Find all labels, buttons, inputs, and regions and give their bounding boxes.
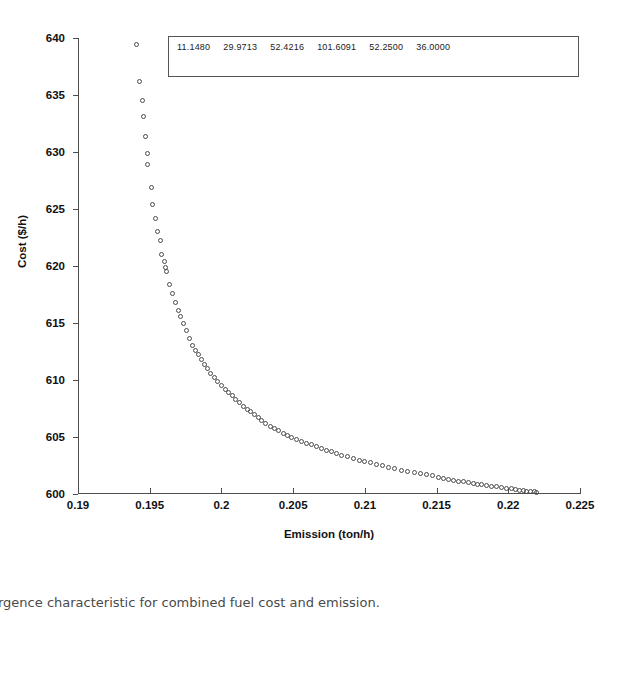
y-tick-label: 625 <box>46 203 65 215</box>
data-point <box>187 336 192 341</box>
data-point <box>418 471 423 476</box>
data-point <box>314 444 319 449</box>
data-point <box>164 269 169 274</box>
data-point <box>351 456 356 461</box>
data-point <box>368 460 373 465</box>
legend-value: 36.0000 <box>416 42 450 52</box>
x-tick-label: 0.205 <box>279 499 308 511</box>
figure-caption-text: rgence characteristic for combined fuel … <box>0 595 380 610</box>
y-tick-label: 600 <box>46 488 65 500</box>
data-point <box>294 437 299 442</box>
x-tick: 0.205 <box>293 488 294 494</box>
x-tick-label: 0.195 <box>135 499 164 511</box>
y-tick-label: 615 <box>46 317 65 329</box>
data-point <box>405 469 410 474</box>
y-axis-line <box>78 38 79 494</box>
data-point <box>412 470 417 475</box>
data-point <box>176 308 181 313</box>
y-tick-label: 620 <box>46 260 65 272</box>
data-point <box>153 216 158 221</box>
data-point <box>399 468 404 473</box>
y-tick-label: 635 <box>46 89 65 101</box>
y-tick: 635 <box>73 95 78 96</box>
plot-area: 600605610615620625630635640 0.190.1950.2… <box>78 38 580 494</box>
data-point <box>134 42 139 47</box>
x-tick: 0.2 <box>221 488 222 494</box>
data-point <box>319 446 324 451</box>
x-tick-label: 0.215 <box>422 499 451 511</box>
y-tick: 605 <box>73 437 78 438</box>
y-tick-label: 630 <box>46 146 65 158</box>
x-tick: 0.21 <box>365 488 366 494</box>
data-point <box>143 134 148 139</box>
figure-container: 600605610615620625630635640 0.190.1950.2… <box>0 0 621 570</box>
data-point <box>149 185 154 190</box>
data-point <box>339 453 344 458</box>
data-point <box>324 448 329 453</box>
data-point <box>309 442 314 447</box>
y-tick: 625 <box>73 209 78 210</box>
y-tick: 640 <box>73 38 78 39</box>
data-point <box>304 441 309 446</box>
data-point <box>299 439 304 444</box>
legend-box: 11.148029.971352.4216101.609152.250036.0… <box>168 36 579 77</box>
x-tick-label: 0.2 <box>213 499 229 511</box>
x-axis-label: Emission (ton/h) <box>78 528 580 540</box>
legend-values: 11.148029.971352.4216101.609152.250036.0… <box>177 42 463 52</box>
data-point <box>424 472 429 477</box>
data-point <box>137 79 142 84</box>
data-point <box>181 321 186 326</box>
legend-value: 101.6091 <box>317 42 356 52</box>
y-tick: 600 <box>73 494 78 495</box>
x-tick-label: 0.22 <box>497 499 519 511</box>
legend-value: 11.1480 <box>177 42 210 52</box>
y-tick-label: 640 <box>46 32 65 44</box>
data-point <box>162 259 167 264</box>
data-point <box>173 300 178 305</box>
x-tick: 0.19 <box>78 488 79 494</box>
data-point <box>380 463 385 468</box>
data-point <box>158 238 163 243</box>
data-point <box>145 162 150 167</box>
x-tick: 0.195 <box>150 488 151 494</box>
data-point <box>430 473 435 478</box>
data-point <box>167 282 172 287</box>
data-point <box>178 314 183 319</box>
x-tick: 0.225 <box>580 488 581 494</box>
data-point <box>357 458 362 463</box>
data-point <box>159 252 164 257</box>
y-tick-label: 605 <box>46 431 65 443</box>
data-point <box>362 459 367 464</box>
y-tick: 630 <box>73 152 78 153</box>
data-point <box>345 454 350 459</box>
legend-value: 52.4216 <box>270 42 304 52</box>
data-point <box>184 328 189 333</box>
x-tick-label: 0.19 <box>67 499 89 511</box>
y-axis-label: Cost ($/h) <box>16 215 28 268</box>
data-point <box>150 202 155 207</box>
data-point <box>436 475 441 480</box>
y-tick: 620 <box>73 266 78 267</box>
data-point <box>170 291 175 296</box>
legend-value: 29.9713 <box>223 42 257 52</box>
x-axis-line <box>78 493 580 494</box>
data-point <box>386 465 391 470</box>
data-point <box>534 490 539 495</box>
x-tick-label: 0.225 <box>566 499 595 511</box>
data-point <box>329 449 334 454</box>
y-tick-label: 610 <box>46 374 65 386</box>
data-point <box>334 451 339 456</box>
x-tick: 0.215 <box>437 488 438 494</box>
data-point <box>155 229 160 234</box>
y-tick: 615 <box>73 323 78 324</box>
data-point <box>145 151 150 156</box>
data-point <box>374 462 379 467</box>
figure-caption: rgence characteristic for combined fuel … <box>0 595 621 610</box>
data-point <box>141 114 146 119</box>
data-point <box>392 466 397 471</box>
x-tick-label: 0.21 <box>354 499 376 511</box>
data-point <box>140 98 145 103</box>
legend-value: 52.2500 <box>369 42 403 52</box>
y-tick: 610 <box>73 380 78 381</box>
